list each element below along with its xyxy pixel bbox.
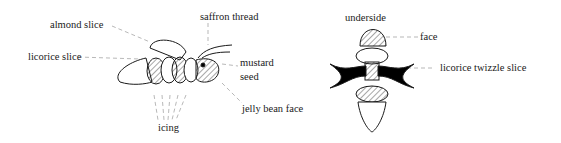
label-licorice-twizzle-slice: licorice twizzle slice xyxy=(440,63,526,74)
label-almond-slice: almond slice xyxy=(50,20,103,31)
label-icing: icing xyxy=(158,123,179,134)
label-saffron-thread: saffron thread xyxy=(200,12,258,23)
side-view-bug xyxy=(118,40,232,84)
underside-bug xyxy=(330,30,414,133)
label-licorice-slice: licorice slice xyxy=(28,52,81,63)
label-seed: seed xyxy=(240,72,259,83)
label-mustard: mustard xyxy=(240,58,274,69)
label-jelly-bean-face: jelly bean face xyxy=(242,104,303,115)
label-face: face xyxy=(420,32,437,43)
label-underside: underside xyxy=(345,13,386,24)
